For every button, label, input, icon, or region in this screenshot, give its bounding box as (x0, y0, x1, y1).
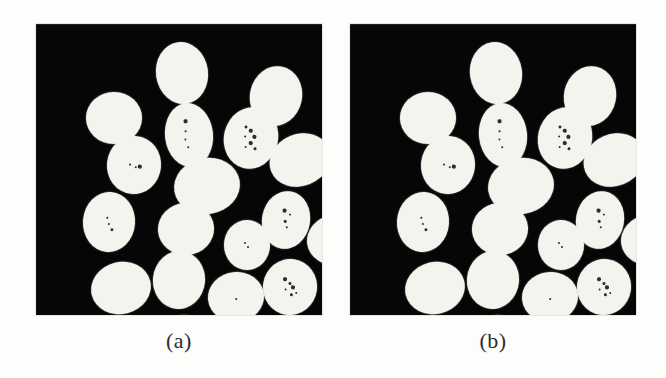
segmented-object (150, 248, 208, 311)
object-speck (288, 213, 291, 216)
object-speck (284, 288, 287, 291)
segmented-object (464, 248, 522, 311)
segmented-object (259, 256, 320, 315)
object-speck (561, 246, 563, 248)
object-speck (184, 120, 188, 124)
object-speck (244, 125, 248, 129)
object-speck (597, 209, 601, 213)
object-speck (598, 288, 601, 291)
object-speck (243, 135, 246, 138)
object-speck (138, 165, 142, 169)
figure-container: (a)(b) (0, 0, 666, 378)
object-speck (288, 281, 291, 284)
object-speck (602, 281, 605, 284)
object-speck (603, 293, 606, 296)
object-speck (283, 277, 287, 281)
object-speck (605, 286, 609, 290)
object-speck (134, 166, 137, 169)
object-speck (557, 135, 560, 138)
object-speck (184, 130, 186, 132)
object-speck (424, 228, 427, 231)
segmented-object (573, 256, 634, 315)
object-speck (244, 242, 246, 244)
object-speck (442, 163, 445, 166)
panel-caption-a: (a) (36, 330, 322, 352)
object-speck (597, 219, 600, 222)
object-speck (452, 165, 456, 169)
object-speck (252, 135, 256, 139)
object-speck (563, 141, 567, 145)
object-speck (247, 246, 249, 248)
segmented-object (520, 269, 581, 315)
object-speck (558, 125, 562, 129)
segmented-object (395, 190, 451, 253)
object-speck (420, 216, 423, 219)
object-speck (244, 146, 247, 149)
object-speck (558, 146, 561, 149)
object-speck (107, 223, 110, 226)
object-speck (498, 138, 500, 140)
object-speck (235, 298, 237, 300)
object-speck (558, 242, 560, 244)
segmentation-image-b (350, 24, 636, 315)
object-speck (448, 166, 451, 169)
object-speck (291, 286, 295, 290)
object-speck (498, 120, 502, 124)
object-speck (602, 213, 605, 216)
object-speck (184, 138, 186, 140)
object-speck (289, 293, 292, 296)
object-speck (549, 298, 551, 300)
object-speck (249, 141, 253, 145)
panel-a: (a) (36, 0, 322, 378)
object-speck (283, 209, 287, 213)
object-speck (597, 277, 601, 281)
object-speck (128, 163, 131, 166)
object-speck (566, 135, 570, 139)
object-speck (110, 228, 113, 231)
panel-b: (b) (350, 0, 636, 378)
object-speck (563, 129, 567, 133)
object-speck (567, 146, 571, 150)
object-speck (187, 146, 190, 149)
object-speck (283, 219, 286, 222)
segmented-object (466, 39, 526, 108)
object-speck (285, 226, 288, 229)
segmented-object (400, 256, 471, 315)
segmented-object (152, 39, 212, 108)
segmented-object (86, 256, 157, 315)
object-speck (421, 223, 424, 226)
object-speck (106, 216, 109, 219)
segmented-object (206, 269, 267, 315)
object-speck (295, 291, 298, 294)
segmented-object (81, 190, 137, 253)
object-speck (498, 130, 500, 132)
object-speck (609, 291, 612, 294)
object-speck (253, 146, 257, 150)
segmentation-image-a (36, 24, 322, 315)
object-speck (501, 146, 504, 149)
object-speck (599, 226, 602, 229)
object-speck (249, 129, 253, 133)
panel-caption-b: (b) (350, 330, 636, 352)
